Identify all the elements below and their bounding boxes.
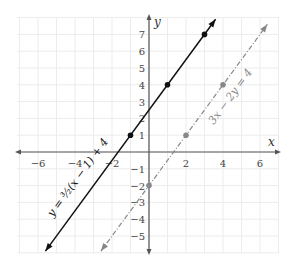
x-axis-label: x xyxy=(268,135,275,149)
svg-text:3: 3 xyxy=(139,97,145,108)
svg-text:−4: −4 xyxy=(130,214,145,225)
svg-text:−5: −5 xyxy=(130,231,145,242)
y-axis-label: y xyxy=(153,15,161,29)
line2-equation-label: 3x − 2y = 4 xyxy=(206,66,255,127)
svg-text:−3: −3 xyxy=(130,197,145,208)
tick-labels: −6−4−2246−5−4−3−2−11234567 xyxy=(31,29,264,242)
svg-text:−1: −1 xyxy=(130,164,145,175)
svg-text:4: 4 xyxy=(139,80,145,91)
svg-text:7: 7 xyxy=(139,29,145,40)
coordinate-plane: −6−4−2246−5−4−3−2−11234567 x y y = ³⁄₂(x… xyxy=(0,0,293,266)
svg-text:−6: −6 xyxy=(31,158,46,169)
svg-text:6: 6 xyxy=(139,46,145,57)
svg-text:1: 1 xyxy=(139,130,145,141)
svg-text:−2: −2 xyxy=(130,181,145,192)
svg-text:5: 5 xyxy=(139,63,145,74)
svg-text:6: 6 xyxy=(257,158,263,169)
svg-text:4: 4 xyxy=(220,158,226,169)
svg-text:2: 2 xyxy=(183,158,189,169)
